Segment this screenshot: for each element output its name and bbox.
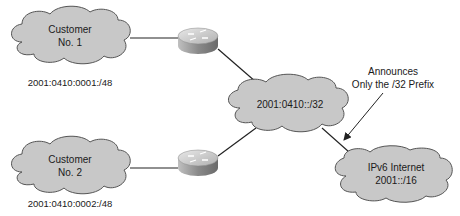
link-router2-isp: [218, 128, 256, 156]
cloud-label-line1: IPv6 Internet: [368, 162, 425, 173]
prefix-label-customer-2: 2001:0410:0002:/48: [28, 198, 113, 209]
announcement-annotation: Announces Only the /32 Prefix: [352, 66, 434, 90]
annotation-line2: Only the /32 Prefix: [352, 79, 434, 90]
annotation-arrow: [344, 93, 383, 140]
cloud-label-line2: 2001::/16: [375, 175, 417, 186]
prefix-label-customer-1: 2001:0410:0001:/48: [28, 77, 113, 88]
cloud-label: 2001:0410::/32: [257, 99, 324, 110]
router-icon: [178, 28, 218, 54]
router-icon: [178, 150, 218, 176]
cloud-customer-1: Customer No. 1: [12, 6, 131, 64]
cloud-customer-2: Customer No. 2: [12, 136, 131, 194]
cloud-label-line1: Customer: [48, 24, 92, 35]
link-router1-isp: [218, 49, 256, 82]
network-diagram: Customer No. 1 2001:0410:0001:/48 Custom…: [0, 0, 460, 216]
cloud-label-line2: No. 1: [58, 37, 82, 48]
cloud-ipv6-internet: IPv6 Internet 2001::/16: [335, 146, 452, 203]
annotation-line1: Announces: [368, 66, 418, 77]
cloud-isp: 2001:0410::/32: [228, 74, 348, 132]
cloud-label-line2: No. 2: [58, 167, 82, 178]
cloud-label-line1: Customer: [48, 154, 92, 165]
